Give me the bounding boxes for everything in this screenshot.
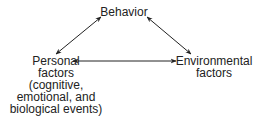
- arrow-behavior-environmental: [147, 17, 191, 54]
- node-personal-line: biological events): [8, 103, 104, 115]
- node-environmental-factors: Environmental factors: [174, 55, 254, 79]
- node-personal-factors: Personal factors (cognitive, emotional, …: [8, 55, 104, 115]
- arrow-behavior-personal: [56, 17, 101, 54]
- node-behavior-line: Behavior: [94, 6, 154, 18]
- node-environmental-line: factors: [174, 67, 254, 79]
- node-behavior: Behavior: [94, 6, 154, 18]
